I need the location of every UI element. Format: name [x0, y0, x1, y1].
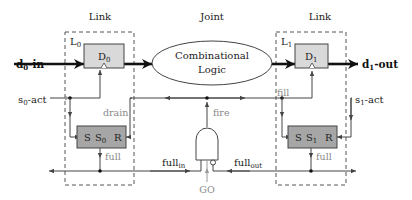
svg-text:S: S — [84, 132, 91, 143]
input-signal-label: d0-in — [16, 58, 45, 72]
fire-and-gate — [196, 128, 221, 171]
s1-full-label: full — [316, 151, 332, 162]
s1-full-junction — [309, 169, 313, 173]
s0-state-element: S S0 R — [77, 126, 126, 148]
svg-text:R: R — [325, 132, 333, 143]
s0-full-junction — [98, 169, 102, 173]
output-signal-label: d1-out — [362, 58, 398, 72]
svg-text:R: R — [114, 132, 122, 143]
section-title-right-link: Link — [309, 11, 332, 22]
svg-text:Combinational: Combinational — [175, 50, 249, 61]
drain-label: drain — [103, 107, 128, 118]
s0-full-label: full — [105, 151, 121, 162]
fill-label: fill — [277, 87, 289, 98]
full-out-label: fullout — [234, 157, 262, 170]
handshake-circuit-diagram: Link Joint Link L0 L1 d0-in d1-out D0 D1… — [0, 0, 412, 200]
combinational-logic-block: Combinational Logic — [152, 41, 272, 85]
svg-text:S: S — [295, 132, 302, 143]
s0-act-label: s0-act — [18, 94, 47, 107]
left-link-name: L0 — [70, 36, 81, 49]
section-title-joint: Joint — [199, 11, 224, 22]
s1-act-label: s1-act — [355, 94, 384, 107]
s1-act-wire — [337, 98, 352, 137]
svg-text:Logic: Logic — [198, 64, 226, 75]
fire-junction — [205, 96, 209, 100]
right-link-name: L1 — [281, 36, 292, 49]
fire-label: fire — [213, 107, 230, 118]
d1-register: D1 — [295, 44, 328, 68]
section-title-left-link: Link — [89, 11, 112, 22]
go-label: GO — [199, 184, 215, 195]
full-in-label: fullin — [162, 157, 186, 170]
s1-state-element: S S1 R — [288, 126, 337, 148]
d0-register: D0 — [84, 44, 124, 68]
